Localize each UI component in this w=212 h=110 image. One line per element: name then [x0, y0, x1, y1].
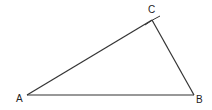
construction-arc-mark — [145, 16, 160, 25]
side-ac — [27, 20, 152, 95]
vertex-label-c: C — [148, 4, 155, 15]
vertex-label-b: B — [196, 94, 203, 105]
triangle-svg: A B C — [0, 0, 212, 110]
vertex-label-a: A — [16, 93, 23, 104]
side-bc — [152, 20, 194, 95]
triangle-diagram: A B C — [0, 0, 212, 110]
